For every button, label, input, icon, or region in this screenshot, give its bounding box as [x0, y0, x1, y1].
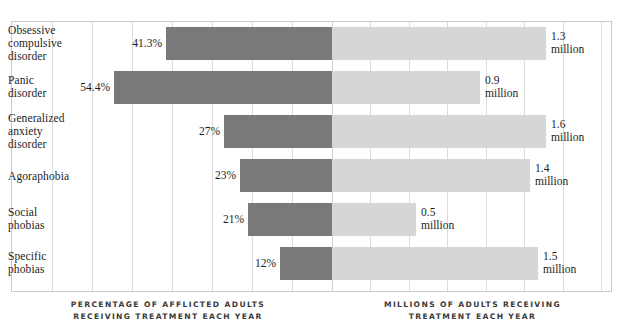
axis-caption-left-line2: RECEIVING TREATMENT EACH YEAR [18, 311, 318, 323]
bar-percentage [240, 159, 332, 192]
value-label-millions-number: 1.5 [543, 250, 576, 263]
value-label-percentage: 23% [170, 169, 236, 182]
value-label-millions: 1.3 million [551, 30, 584, 55]
bar-percentage [166, 27, 332, 60]
category-label-line: phobias [8, 219, 112, 232]
value-label-millions-unit: million [551, 43, 584, 56]
category-label: Generalized anxiety disorder [8, 112, 112, 152]
category-label-line: phobias [8, 263, 112, 276]
bar-millions [332, 27, 546, 60]
axis-caption-left-line1: PERCENTAGE OF AFFLICTED ADULTS [18, 299, 318, 311]
bar-percentage [114, 71, 332, 104]
bar-millions [332, 115, 546, 148]
bar-millions [332, 159, 530, 192]
category-label-line: disorder [8, 50, 112, 63]
category-label: Social phobias [8, 206, 112, 232]
bar-millions [332, 247, 538, 280]
gridline-left-6 [252, 22, 253, 291]
category-label-line: disorder [8, 138, 112, 151]
value-label-millions-unit: million [485, 87, 518, 100]
value-label-percentage: 54.4% [44, 81, 110, 94]
value-label-millions-number: 0.5 [421, 206, 454, 219]
bar-millions [332, 203, 416, 236]
bar-percentage [248, 203, 332, 236]
axis-caption-left: PERCENTAGE OF AFFLICTED ADULTS RECEIVING… [18, 299, 318, 324]
value-label-millions: 1.6 million [551, 118, 584, 143]
category-label-line: Generalized [8, 112, 112, 125]
value-label-millions-number: 0.9 [485, 74, 518, 87]
category-label-line: Agoraphobia [8, 170, 112, 183]
value-label-millions-number: 1.4 [535, 162, 568, 175]
value-label-millions: 1.5 million [543, 250, 576, 275]
value-label-millions-unit: million [421, 219, 454, 232]
bar-millions [332, 71, 480, 104]
value-label-millions-unit: million [535, 175, 568, 188]
axis-caption-right-line1: MILLIONS OF ADULTS RECEIVING [330, 299, 615, 311]
bar-percentage [224, 115, 332, 148]
value-label-percentage: 27% [154, 125, 220, 138]
category-label-line: Obsessive [8, 24, 112, 37]
value-label-percentage: 12% [210, 257, 276, 270]
value-label-percentage: 41.3% [96, 37, 162, 50]
gridline-left-4 [172, 22, 173, 291]
gridline-left-5 [212, 22, 213, 291]
value-label-millions-unit: million [551, 131, 584, 144]
axis-caption-right-line2: TREATMENT EACH YEAR [330, 311, 615, 323]
gridline-left-3 [132, 22, 133, 291]
category-label-line: Specific [8, 250, 112, 263]
bar-percentage [280, 247, 332, 280]
value-label-millions: 0.9 million [485, 74, 518, 99]
category-label-line: Social [8, 206, 112, 219]
value-label-millions-number: 1.6 [551, 118, 584, 131]
value-label-millions: 1.4 million [535, 162, 568, 187]
gridline-right-7 [601, 22, 602, 291]
value-label-millions-number: 1.3 [551, 30, 584, 43]
value-label-percentage: 21% [178, 213, 244, 226]
category-label: Specific phobias [8, 250, 112, 276]
category-label-line: anxiety [8, 125, 112, 138]
value-label-millions-unit: million [543, 263, 576, 276]
axis-caption-right: MILLIONS OF ADULTS RECEIVING TREATMENT E… [330, 299, 615, 324]
value-label-millions: 0.5 million [421, 206, 454, 231]
anxiety-disorders-treatment-chart: Obsessive compulsive disorder 41.3% 1.3 … [0, 0, 623, 331]
category-label: Agoraphobia [8, 170, 112, 183]
